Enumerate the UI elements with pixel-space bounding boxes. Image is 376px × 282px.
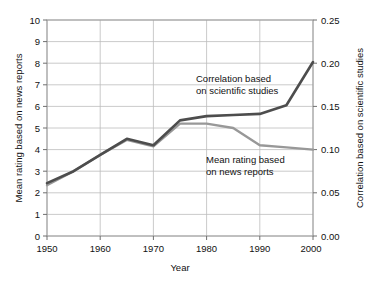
scientific-studies-annotation-line1: Correlation based [196,73,271,84]
x-axis-title: Year [170,262,189,273]
ytick-1: 1 [35,209,40,220]
y2tick-010: 0.10 [321,144,340,155]
y-axis-title: Mean rating based on news reports [13,53,24,202]
ytick-8: 8 [35,58,40,69]
ytick-6: 6 [35,101,40,112]
y2-axis-title: Correlation based on scientific studies [354,48,365,208]
ytick-7: 7 [35,79,40,90]
xtick-1990: 1990 [249,243,270,254]
ytick-5: 5 [35,123,40,134]
xtick-1970: 1970 [143,243,164,254]
xtick-1950: 1950 [36,243,57,254]
y2tick-015: 0.15 [321,101,340,112]
news-reports-annotation-line2: on news reports [206,166,274,177]
chart-figure: 10 9 8 7 6 5 4 3 2 1 0 0.25 0.20 0.15 0.… [0,0,376,282]
news-reports-annotation-line1: Mean rating based [206,154,285,165]
xtick-2000: 2000 [300,243,321,254]
chart-background [0,0,376,282]
ytick-2: 2 [35,187,40,198]
xtick-1960: 1960 [90,243,111,254]
dual-axis-line-chart: 10 9 8 7 6 5 4 3 2 1 0 0.25 0.20 0.15 0.… [0,0,376,282]
y2tick-000: 0.00 [321,231,340,242]
y2tick-020: 0.20 [321,58,340,69]
ytick-3: 3 [35,166,40,177]
ytick-4: 4 [35,144,40,155]
xtick-1980: 1980 [196,243,217,254]
news-reports-annotation: Mean rating based on news reports [206,154,285,177]
ytick-10: 10 [29,15,40,26]
ytick-0: 0 [35,231,40,242]
ytick-9: 9 [35,36,40,47]
y2tick-005: 0.05 [321,187,340,198]
y2tick-025: 0.25 [321,15,340,26]
scientific-studies-annotation: Correlation based on scientific studies [196,73,279,96]
scientific-studies-annotation-line2: on scientific studies [196,85,279,96]
